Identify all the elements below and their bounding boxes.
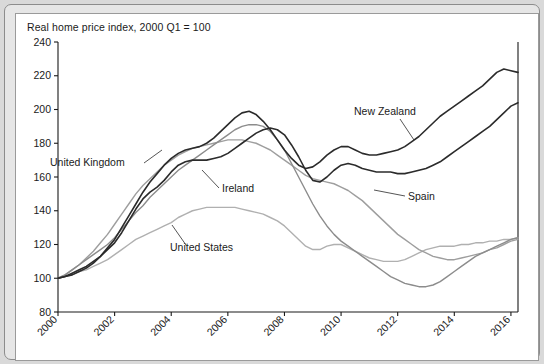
data-series-group <box>58 69 518 287</box>
series-label-new-zealand: New Zealand <box>354 105 416 117</box>
leader-line-ireland <box>202 170 219 188</box>
y-tick-label: 100 <box>33 272 51 284</box>
x-tick-label: 2002 <box>91 313 116 338</box>
series-label-united-kingdom: United Kingdom <box>50 156 125 168</box>
y-tick-label: 200 <box>33 103 51 115</box>
x-axis-tick-group: 200020022004200620082010201220142016 <box>34 312 512 338</box>
x-tick-label: 2008 <box>261 313 286 338</box>
y-tick-label: 160 <box>33 171 51 183</box>
leader-line-spain <box>374 190 405 196</box>
y-tick-label: 240 <box>33 36 51 48</box>
leader-line-new-zealand <box>400 119 414 140</box>
y-tick-label: 220 <box>33 69 51 81</box>
series-label-united-states: United States <box>170 241 233 253</box>
y-tick-label: 120 <box>33 238 51 250</box>
series-line-spain <box>58 140 518 278</box>
x-tick-label: 2014 <box>431 313 456 338</box>
series-label-ireland: Ireland <box>222 182 254 194</box>
figure-outer-frame: Real home price index, 2000 Q1 = 100 801… <box>4 4 540 360</box>
x-tick-label: 2006 <box>204 313 229 338</box>
x-tick-label: 2000 <box>34 313 59 338</box>
axis-lines <box>58 42 518 312</box>
x-tick-label: 2016 <box>487 313 512 338</box>
series-annotation-group: United KingdomIrelandUnited StatesNew Ze… <box>50 105 435 253</box>
x-tick-label: 2004 <box>148 313 173 338</box>
series-label-spain: Spain <box>408 190 435 202</box>
y-axis-tick-group: 80100120140160180200220240 <box>33 36 58 318</box>
y-tick-label: 140 <box>33 204 51 216</box>
y-tick-label: 180 <box>33 137 51 149</box>
chart-panel: Real home price index, 2000 Q1 = 100 801… <box>15 13 539 361</box>
chart-plot-area: 80100120140160180200220240 2000200220042… <box>16 14 540 362</box>
x-tick-label: 2012 <box>374 313 399 338</box>
series-line-united-kingdom <box>58 103 518 279</box>
x-tick-label: 2010 <box>317 313 342 338</box>
leader-line-united-kingdom <box>144 150 162 163</box>
